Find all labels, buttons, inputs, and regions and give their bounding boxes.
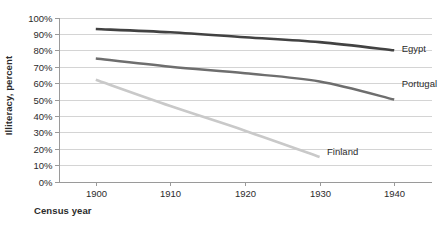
series-label-finland: Finland xyxy=(327,146,358,157)
x-tick-label: 1920 xyxy=(235,188,256,199)
gridlines-group xyxy=(59,19,432,183)
y-tick-label: 10% xyxy=(33,160,53,171)
y-tick-labels-group: 0%10%20%30%40%50%60%70%80%90%100% xyxy=(28,13,53,188)
y-tick-label: 50% xyxy=(33,95,53,106)
y-tick-label: 80% xyxy=(33,45,53,56)
x-tick-label: 1900 xyxy=(86,188,107,199)
series-label-portugal: Portugal xyxy=(402,78,437,89)
chart-screenshot: Illiteracy, percent Census year 0%10%20%… xyxy=(0,0,439,230)
x-tick-label: 1940 xyxy=(384,188,405,199)
series-lines-group xyxy=(96,29,394,157)
series-label-egypt: Egypt xyxy=(402,43,427,54)
series-line-egypt xyxy=(96,29,394,50)
y-tick-label: 0% xyxy=(39,177,53,188)
series-line-portugal xyxy=(96,59,394,100)
series-line-finland xyxy=(96,80,320,157)
y-tick-label: 20% xyxy=(33,144,53,155)
line-chart: 0%10%20%30%40%50%60%70%80%90%100% 190019… xyxy=(0,0,439,230)
x-tick-label: 1910 xyxy=(160,188,181,199)
plot-area: 0%10%20%30%40%50%60%70%80%90%100% 190019… xyxy=(0,0,439,230)
y-tick-label: 70% xyxy=(33,62,53,73)
y-tick-label: 40% xyxy=(33,111,53,122)
y-tick-label: 100% xyxy=(28,13,53,24)
y-tick-label: 30% xyxy=(33,127,53,138)
y-tick-label: 60% xyxy=(33,78,53,89)
x-tick-label: 1930 xyxy=(310,188,331,199)
y-tick-label: 90% xyxy=(33,29,53,40)
x-tick-labels-group: 19001910192019301940 xyxy=(86,188,405,199)
